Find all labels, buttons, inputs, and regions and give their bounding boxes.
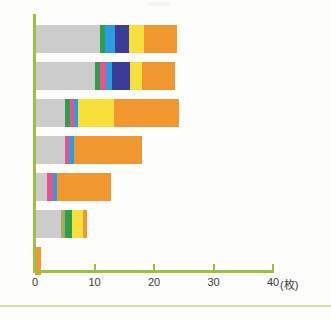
x-axis-tick xyxy=(213,264,215,271)
bar-segment-blue xyxy=(105,25,116,53)
bar-row xyxy=(35,173,111,201)
bar-row xyxy=(35,62,175,90)
bar-segment-orange xyxy=(114,99,179,127)
bar-segment-gray xyxy=(35,136,65,164)
bar-segment-orange xyxy=(83,210,87,238)
bar-segment-green xyxy=(65,210,72,238)
bar-segment-gray xyxy=(35,210,61,238)
bar-row xyxy=(35,136,142,164)
bar-row xyxy=(35,210,87,238)
x-axis-tick-label: 40 xyxy=(267,276,279,288)
bar-row xyxy=(35,25,177,53)
bar-segment-navy xyxy=(112,62,130,90)
x-axis-tick xyxy=(272,264,274,271)
bar-segment-yellow xyxy=(72,210,82,238)
bar-segment-orange xyxy=(74,136,142,164)
bar-segment-gray xyxy=(35,99,65,127)
bar-segment-yellow xyxy=(130,62,142,90)
x-axis-tick xyxy=(34,264,36,271)
x-axis-tick-label: 20 xyxy=(148,276,160,288)
x-axis-tick-label: 30 xyxy=(207,276,219,288)
bar-segment-yellow xyxy=(78,99,114,127)
top-edge-artifact xyxy=(148,2,170,6)
bar-segment-gray xyxy=(35,173,47,201)
bar-segment-orange xyxy=(57,173,111,201)
stacked-bar-chart: 010203040 (枚) xyxy=(0,0,331,320)
y-axis-line xyxy=(33,14,36,272)
bar-segment-orange xyxy=(144,25,177,53)
bottom-divider-rule xyxy=(0,305,331,307)
bar-row xyxy=(35,99,179,127)
bar-segment-gray xyxy=(35,25,100,53)
bar-segment-gray xyxy=(35,62,95,90)
bar-segment-yellow xyxy=(129,25,144,53)
x-axis-unit-label: (枚) xyxy=(280,276,298,292)
bar-segment-navy xyxy=(115,25,129,53)
x-axis-tick-label: 0 xyxy=(32,276,38,288)
plot-area xyxy=(35,18,273,270)
x-axis-tick xyxy=(94,264,96,271)
x-axis-tick xyxy=(153,264,155,271)
x-axis-tick-label: 10 xyxy=(88,276,100,288)
bar-segment-orange xyxy=(142,62,175,90)
